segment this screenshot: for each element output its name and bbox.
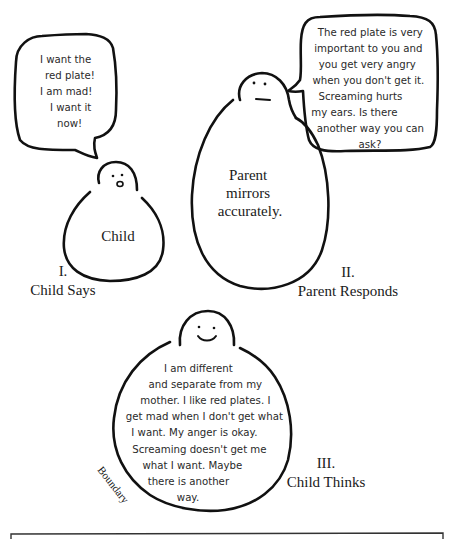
caption-box-border <box>11 533 443 539</box>
parent-eye-right <box>264 83 267 86</box>
panel-3-numeral: III. <box>317 455 336 471</box>
parent-head <box>239 73 296 118</box>
child-label: Child <box>101 228 135 244</box>
child-thinks-smile <box>198 336 216 341</box>
child-eye-left <box>112 175 115 178</box>
panel-2-numeral: II. <box>341 264 355 280</box>
panel-child-thinks: I am different and separate from my moth… <box>95 311 365 511</box>
child-thinks-eye-right <box>213 327 216 330</box>
mirroring-diagram: I want the red plate! I am mad! I want i… <box>0 0 456 539</box>
panel-child-says: I want the red plate! I am mad! I want i… <box>15 34 164 298</box>
parent-speech-text: The red plate is very important to you a… <box>311 27 427 150</box>
panel-2-caption: Parent Responds <box>298 283 399 299</box>
parent-label: Parent mirrors accurately. <box>218 167 282 219</box>
panel-1-caption: Child Says <box>30 282 96 298</box>
child-speech-text: I want the red plate! I am mad! I want i… <box>40 54 98 129</box>
panel-3-caption: Child Thinks <box>287 474 366 490</box>
panel-parent-responds: Parent mirrors accurately. The red plate… <box>192 15 438 299</box>
child-mouth-open <box>117 182 123 187</box>
child-thought-text: I am different and separate from my moth… <box>126 363 286 503</box>
child-thinks-eye-left <box>198 326 201 329</box>
panel-1-numeral: I. <box>59 263 68 279</box>
child-eye-right <box>121 174 124 177</box>
parent-eye-left <box>253 82 256 85</box>
parent-mouth-flat <box>256 99 270 100</box>
